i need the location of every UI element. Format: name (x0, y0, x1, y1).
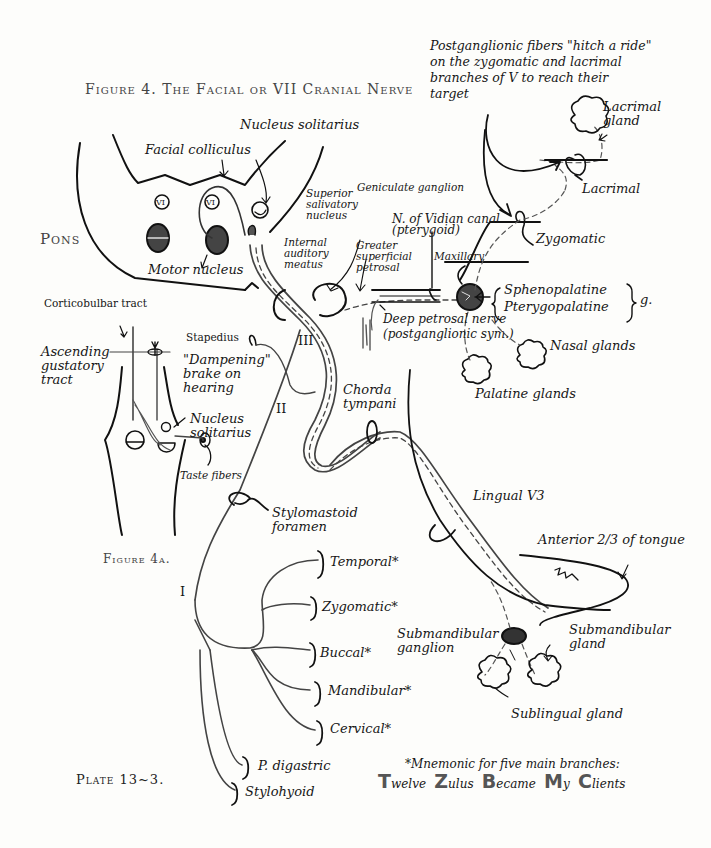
abducens-nucleus-left-label: VI (156, 196, 165, 210)
segment-I-label: I (180, 585, 185, 599)
mnemonic-initial: T (378, 770, 391, 792)
plate-label: Plate 13~3. (76, 773, 164, 787)
geniculate-ganglion-label: Geniculate ganglion (357, 182, 464, 193)
segment-II-label: II (276, 402, 286, 416)
palatine-glands-label: Palatine glands (475, 387, 576, 401)
mnemonic-heading: *Mnemonic for five main branches: (405, 757, 620, 771)
lingual-nerve-label: Lingual V3 (473, 489, 545, 503)
maxillary-label: Maxillary (434, 251, 484, 262)
ganglion-suffix-label: g. (640, 293, 652, 307)
greater-superficial-petrosal-label: Greater superficial petrosal (356, 240, 412, 273)
corticobulbar-tract-label: Corticobulbar tract (44, 298, 147, 309)
figure-4a-caption: Figure 4a. (103, 552, 171, 566)
zygomatic-nerve-label: Zygomatic (536, 232, 605, 246)
submandibular-ganglion-label: Submandibular ganglion (397, 627, 498, 655)
branch-cervical-label: Cervical* (330, 722, 391, 736)
segment-III-label: III (298, 334, 313, 348)
taste-fibers-label: Taste fibers (180, 470, 242, 481)
lacrimal-nerve-label: Lacrimal (582, 182, 640, 196)
mnemonic-rest: lients (592, 777, 626, 791)
mnemonic-rest: welve (391, 777, 426, 791)
dampening-label: "Dampening" brake on hearing (183, 353, 271, 395)
vidian-nerve-label: N. of Vidian canal (pterygoid) (392, 214, 500, 236)
branch-buccal-label: Buccal* (320, 646, 371, 660)
lacrimal-gland-label: Lacrimal gland (603, 100, 661, 128)
ascending-gustatory-tract-label: Ascending gustatory tract (41, 345, 110, 387)
chorda-tympani-label: Chorda tympani (343, 383, 397, 411)
peripheral-branches (195, 560, 318, 790)
mnemonic-phrase: Twelve Zulus Became My Clients (378, 774, 625, 791)
anterior-tongue-label: Anterior 2/3 of tongue (538, 533, 685, 547)
sublingual-gland-label: Sublingual gland (511, 707, 623, 721)
facial-colliculus-label: Facial colliculus (145, 143, 251, 157)
deep-petrosal-label: Deep petrosal nerve (postganglionic sym.… (383, 312, 514, 342)
mnemonic-initial: B (482, 770, 496, 792)
nasal-glands-label: Nasal glands (550, 339, 635, 353)
internal-auditory-meatus-label: Internal auditory meatus (284, 237, 329, 270)
branch-mandibular-label: Mandibular* (328, 684, 411, 698)
motor-nucleus-label: Motor nucleus (148, 263, 243, 277)
mnemonic-rest: ecame (496, 777, 535, 791)
mnemonic-initial: M (544, 770, 563, 792)
mnemonic-initial: C (578, 770, 592, 792)
mnemonic-rest: y (563, 777, 570, 791)
branch-stylohyoid-label: Stylohyoid (245, 785, 314, 799)
nucleus-solitarius-label: Nucleus solitarius (240, 118, 359, 132)
sphenopalatine-label: Sphenopalatine (504, 283, 607, 297)
branch-posterior-digastric-label: P. digastric (258, 759, 330, 773)
postganglionic-note: Postganglionic fibers "hitch a ride" on … (430, 38, 651, 102)
figure4a-nucleus-solitarius-label: Nucleus solitarius (190, 412, 251, 440)
figure-title: Figure 4. The Facial or VII Cranial Nerv… (85, 82, 413, 96)
stapedius-label: Stapedius (186, 332, 239, 343)
branch-zygomatic-label: Zygomatic* (322, 600, 398, 614)
superior-salivatory-nucleus-label: Superior salivatory nucleus (306, 188, 358, 221)
pons-label: Pons (40, 232, 80, 246)
submandibular-gland-label: Submandibular gland (569, 623, 670, 651)
mnemonic-initial: Z (434, 770, 448, 792)
abducens-nucleus-right-label: VI (206, 196, 215, 210)
stylomastoid-foramen-label: Stylomastoid foramen (272, 506, 358, 534)
mnemonic-rest: ulus (448, 777, 473, 791)
pterygopalatine-label: Pterygopalatine (504, 300, 609, 314)
branch-temporal-label: Temporal* (330, 555, 398, 569)
